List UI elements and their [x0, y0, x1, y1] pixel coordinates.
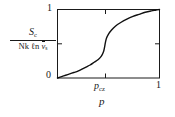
- plot-frame: [58, 10, 160, 79]
- plot-svg: [0, 0, 175, 117]
- data-curve: [58, 10, 160, 79]
- figure-container: Sc Nk ℓn vs 1 0 1 pcz p: [0, 0, 175, 117]
